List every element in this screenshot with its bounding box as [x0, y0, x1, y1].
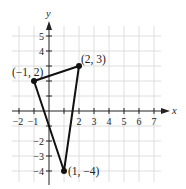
y-tick-label: −4	[33, 166, 44, 177]
x-tick-label: 6	[137, 116, 142, 127]
x-tick-label: 3	[92, 116, 97, 127]
y-tick-label: 4	[39, 46, 44, 57]
y-tick-label: −3	[33, 151, 44, 162]
x-tick-label: −2	[13, 116, 24, 127]
x-tick-label: 4	[107, 116, 112, 127]
y-axis-label: y	[45, 8, 51, 19]
y-tick-label: 5	[39, 31, 44, 42]
coordinate-plot: x y −2 −1 2 3 4 5 6 7 5 4 −2 −3 −4 (−1, …	[0, 0, 186, 189]
x-tick-labels: −2 −1 2 3 4 5 6 7	[13, 116, 157, 127]
x-tick-label: 5	[122, 116, 127, 127]
point-a	[31, 78, 37, 84]
point-c-label: (1, −4)	[68, 165, 100, 178]
x-tick-label: 2	[77, 116, 82, 127]
x-tick-label: −1	[28, 116, 39, 127]
x-axis-label: x	[171, 105, 177, 116]
y-tick-label: −2	[33, 136, 44, 147]
x-tick-label: 7	[152, 116, 157, 127]
point-c	[61, 168, 67, 174]
point-b-label: (2, 3)	[81, 53, 106, 66]
y-axis-arrow-icon	[46, 21, 52, 30]
x-axis-arrow-icon	[161, 108, 170, 114]
point-a-label: (−1, 2)	[12, 66, 44, 79]
